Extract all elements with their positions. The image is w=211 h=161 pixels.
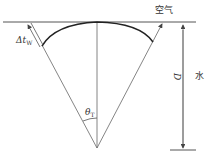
right-cone-ray [97, 24, 162, 148]
depth-label: D [172, 73, 181, 80]
delta-tw-label: ΔtW [16, 36, 32, 46]
theta-sub: T [90, 111, 94, 118]
left-cone-line [42, 45, 97, 148]
theta-angle-arc [83, 118, 97, 121]
air-label: 空气 [155, 6, 173, 15]
delta-tw-main: Δt [16, 35, 26, 45]
delta-tw-sub: W [26, 39, 32, 46]
water-label: 水 [195, 72, 204, 81]
theta-label: θT [85, 108, 94, 118]
refraction-arc [42, 22, 153, 46]
cone-diagram [0, 0, 211, 161]
